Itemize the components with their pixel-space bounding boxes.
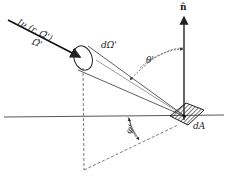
theta-label: θ' [146, 56, 154, 65]
theta-arc [130, 48, 183, 80]
normal-label: n̂ [180, 3, 187, 12]
solid-angle-label: dΩ' [101, 41, 117, 50]
solid-angle-cone [70, 43, 186, 117]
area-label: dA [193, 122, 205, 131]
projection-vertical-dashed [83, 68, 84, 170]
